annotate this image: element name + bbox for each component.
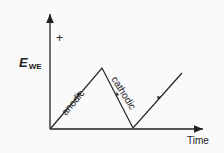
y-axis-label-main: E <box>19 55 28 70</box>
segment-label-cathodic: cathodic <box>109 74 138 111</box>
y-axis-label: EWE <box>19 55 42 71</box>
y-axis-label-subscript: WE <box>29 62 42 71</box>
segment-label-anodic: anodic <box>59 88 86 118</box>
potential-time-diagram: anodic cathodic <box>0 0 224 153</box>
x-axis-label: Time <box>187 135 209 146</box>
positive-sign-label: + <box>56 31 63 45</box>
